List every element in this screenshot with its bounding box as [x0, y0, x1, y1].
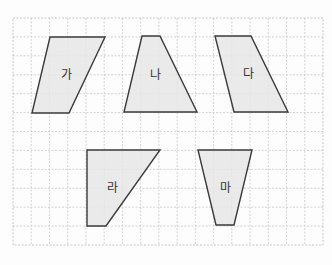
quadrilateral-ra — [87, 150, 160, 226]
grid-diagram: 가 나 다 라 마 — [0, 0, 332, 265]
shape-label-na: 나 — [150, 68, 161, 82]
shape-label-ga: 가 — [61, 68, 72, 82]
shape-da: 다 — [215, 36, 288, 112]
shape-label-da: 다 — [243, 67, 254, 81]
shape-na: 나 — [124, 36, 197, 112]
shape-ra: 라 — [87, 150, 160, 226]
shape-ma: 마 — [198, 150, 252, 225]
shape-label-ma: 마 — [220, 181, 231, 195]
shapes-layer: 가 나 다 라 마 — [32, 36, 288, 226]
quadrilateral-na — [124, 36, 197, 112]
shape-label-ra: 라 — [107, 181, 118, 195]
